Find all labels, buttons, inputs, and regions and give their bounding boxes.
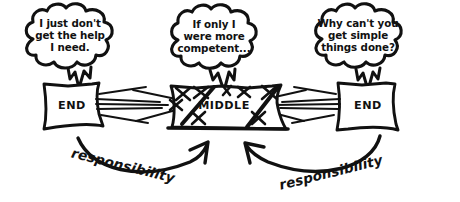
right-bubble-line-3: things done? [321, 41, 395, 53]
left-speed-lines [96, 87, 176, 123]
right-bubble-line-2: get simple [328, 29, 388, 41]
right-arrow-label: responsibility [277, 151, 385, 192]
left-bubble-line-2: get the help [35, 29, 105, 41]
middle-box: MIDDLE [168, 85, 288, 129]
left-end-box-label: END [58, 99, 86, 112]
right-bubble-line-1: Why can't you [318, 17, 399, 29]
left-arrow-label: responsibility [70, 145, 178, 186]
left-responsibility-arrow: responsibility [70, 138, 208, 186]
left-bubble-line-3: I need. [50, 41, 89, 53]
middle-bubble-line-3: competent... [178, 42, 251, 54]
right-responsibility-arrow: responsibility [245, 136, 385, 193]
middle-box-label: MIDDLE [198, 99, 250, 112]
middle-thought-bubble: If only I were more competent... [172, 5, 257, 91]
right-end-box: END [337, 83, 398, 130]
middle-bubble-line-1: If only I [192, 18, 235, 30]
diagram-illustration: I just don't get the help I need. If onl… [0, 0, 460, 202]
right-end-box-label: END [354, 99, 382, 112]
left-end-box: END [44, 83, 103, 129]
left-bubble-line-1: I just don't [39, 17, 101, 29]
right-thought-bubble: Why can't you get simple things done? [316, 4, 402, 90]
left-thought-bubble: I just don't get the help I need. [26, 4, 112, 88]
diagram-canvas: I just don't get the help I need. If onl… [0, 0, 460, 202]
middle-bubble-line-2: were more [183, 30, 244, 42]
